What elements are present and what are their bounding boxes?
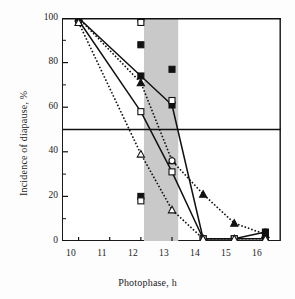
x-tick-label-10: 10 <box>63 248 79 258</box>
x-tick-label-16: 16 <box>249 248 265 258</box>
x-tick-label-11: 11 <box>94 248 110 258</box>
data-point-filled-triangle <box>137 79 144 86</box>
x-tick-label-12: 12 <box>125 248 141 258</box>
data-point-filled-triangle <box>231 220 238 227</box>
x-axis-title: Photophase, h <box>0 277 295 288</box>
data-point-filled-circle <box>262 229 268 235</box>
y-tick-label-80: 80 <box>34 56 58 66</box>
data-point-open-square <box>138 198 144 204</box>
y-tick-label-60: 60 <box>34 101 58 111</box>
y-tick-label-20: 20 <box>34 190 58 200</box>
data-point-open-square <box>138 19 144 25</box>
plot-area <box>62 18 280 241</box>
x-tick-label-14: 14 <box>187 248 203 258</box>
y-tick-label-40: 40 <box>34 145 58 155</box>
x-tick-label-15: 15 <box>218 248 234 258</box>
y-tick-label-0: 0 <box>34 235 58 245</box>
chart-canvas <box>63 18 281 241</box>
data-point-filled-square <box>169 66 175 72</box>
x-tick-label-13: 13 <box>156 248 172 258</box>
data-point-open-circle <box>169 158 175 164</box>
y-tick-label-100: 100 <box>34 12 58 22</box>
data-point-open-square <box>138 109 144 115</box>
data-point-open-triangle <box>137 150 144 157</box>
chart-figure: Incidence of diapause, % 100 80 60 40 20… <box>0 0 295 299</box>
data-point-open-square <box>169 98 175 104</box>
data-point-filled-triangle <box>200 191 207 198</box>
data-point-filled-square <box>138 42 144 48</box>
y-axis-title: Incidence of diapause, % <box>18 91 29 196</box>
data-point-open-square <box>169 169 175 175</box>
